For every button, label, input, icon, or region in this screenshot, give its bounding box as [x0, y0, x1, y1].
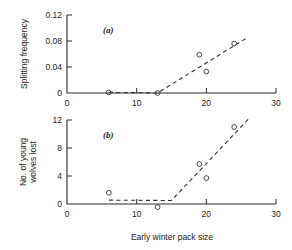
- wolf-pack-figure: 0.12 0.08 0.04 0 0 10 20 30 Splitting fr…: [0, 0, 292, 250]
- panel-b-yticklabel-12: 12: [53, 115, 63, 125]
- panel-a-xticklabel-10: 10: [132, 98, 142, 108]
- panel-b-xticklabel-30: 30: [271, 209, 281, 219]
- data-point: [197, 52, 202, 57]
- panel-b-xticklabel-10: 10: [132, 209, 142, 219]
- panel-a-y-axis-title: Splitting frequency: [19, 18, 29, 89]
- panel-b-fitline-group: [109, 119, 248, 200]
- panel-a-yticklabel-3: 0.12: [45, 10, 62, 20]
- data-point: [204, 69, 209, 74]
- panel-a-xticklabel-20: 20: [202, 98, 212, 108]
- panel-b-yticklabel-4: 4: [57, 171, 62, 181]
- panel-b-label: (b): [103, 130, 114, 140]
- panel-b-xticklabel-0: 0: [65, 209, 70, 219]
- data-point: [197, 162, 202, 167]
- panel-b-datapoints: [106, 125, 236, 210]
- data-point: [232, 41, 237, 46]
- x-axis-title: Early winter pack size: [131, 232, 213, 242]
- panel-b-xticklabel-20: 20: [202, 209, 212, 219]
- panel-b-y-axis-title-line1: No. of young: [18, 138, 28, 186]
- panel-a-yticklabel-0: 0: [57, 88, 62, 98]
- panel-b-axes: [67, 120, 276, 204]
- panel-b-fit-line: [109, 119, 248, 200]
- panel-b-y-axis-title: No. of young wolves lost: [18, 138, 38, 186]
- figure-container: 0.12 0.08 0.04 0 0 10 20 30 Splitting fr…: [0, 0, 292, 250]
- panel-b: 12 8 4 0 0 10 20 30 No. of young wolves …: [18, 115, 281, 219]
- panel-a-fitline-group: [109, 37, 248, 93]
- panel-a-datapoints: [106, 41, 236, 95]
- panel-b-y-axis-title-line2: wolves lost: [28, 141, 38, 184]
- panel-a: 0.12 0.08 0.04 0 0 10 20 30 Splitting fr…: [19, 10, 281, 108]
- panel-a-label: (a): [103, 25, 114, 35]
- panel-b-yticklabel-0: 0: [57, 199, 62, 209]
- panel-a-xticklabel-0: 0: [65, 98, 70, 108]
- panel-b-yticklabel-8: 8: [57, 143, 62, 153]
- panel-a-axes: [67, 15, 276, 93]
- data-point: [204, 176, 209, 181]
- data-point: [232, 125, 237, 130]
- panel-a-xticklabel-30: 30: [271, 98, 281, 108]
- data-point: [106, 190, 111, 195]
- panel-a-fit-line: [109, 37, 248, 93]
- data-point: [155, 205, 160, 210]
- panel-a-yticklabel-1: 0.04: [45, 62, 62, 72]
- panel-a-yticklabel-2: 0.08: [45, 36, 62, 46]
